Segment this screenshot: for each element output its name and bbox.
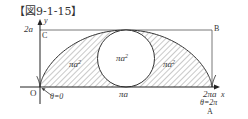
x-axis-label: x <box>221 91 225 99</box>
point-A-label: A <box>207 108 213 116</box>
x-mid-label: πa <box>119 90 128 99</box>
y-tick-2a: 2a <box>24 25 33 34</box>
theta-end-label: θ=2π <box>200 99 217 107</box>
point-B-label: B <box>214 25 219 33</box>
circle-area-label: πa2 <box>116 53 128 63</box>
y-axis-label: y <box>44 17 48 25</box>
theta-start-label: θ=0 <box>50 93 63 101</box>
origin-label: O <box>30 89 37 98</box>
y-axis-arrow-icon <box>38 19 43 25</box>
left-region-area-label: πa2 <box>69 59 81 69</box>
point-C-label: C <box>42 32 47 40</box>
right-region-area-label: πa2 <box>163 59 175 69</box>
